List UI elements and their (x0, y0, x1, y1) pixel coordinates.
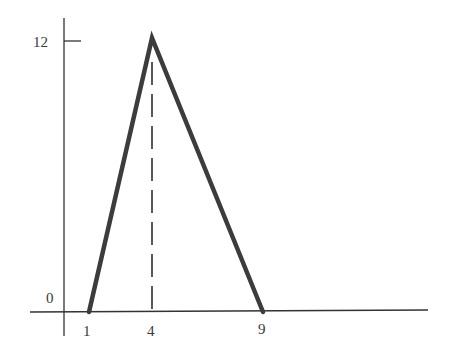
y-tick-label-0: 0 (46, 290, 54, 306)
triangle-series (89, 38, 263, 312)
chart: 12 0 1 4 9 (0, 0, 449, 354)
x-tick-label-4: 4 (147, 323, 155, 339)
x-tick-label-9: 9 (258, 321, 266, 337)
y-tick-label-12: 12 (33, 34, 48, 50)
x-tick-label-1: 1 (83, 323, 91, 339)
